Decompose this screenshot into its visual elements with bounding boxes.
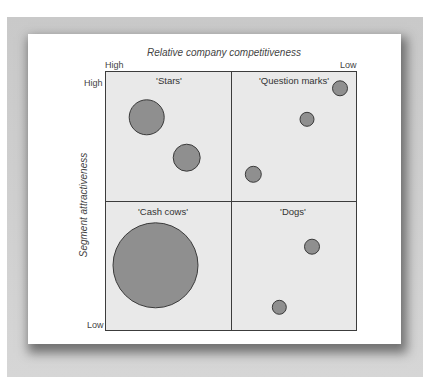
y-axis-low-label: Low <box>87 320 104 330</box>
x-axis-title: Relative company competitiveness <box>0 47 438 58</box>
quadrant-label-cash-cows: 'Cash cows' <box>138 206 188 217</box>
figure-stage: Relative company competitiveness High Lo… <box>0 0 438 390</box>
x-axis-low-label: Low <box>340 60 357 70</box>
quadrant-label-question-marks: 'Question marks' <box>259 75 329 86</box>
quadrant-label-dogs: 'Dogs' <box>280 206 306 217</box>
quadrant-label-stars: 'Stars' <box>156 75 182 86</box>
horizontal-divider <box>106 201 356 202</box>
x-axis-high-label: High <box>105 60 124 70</box>
y-axis-title: Segment attractiveness <box>78 153 89 258</box>
y-axis-high-label: High <box>84 78 103 88</box>
portfolio-matrix: 'Stars' 'Question marks' 'Cash cows' 'Do… <box>105 71 357 331</box>
